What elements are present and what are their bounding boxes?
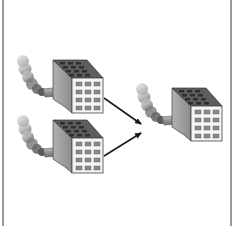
factory-icon bbox=[17, 55, 103, 113]
factory-icon bbox=[136, 83, 222, 141]
merger-diagram bbox=[0, 0, 241, 226]
arrow-icon bbox=[104, 133, 141, 156]
diagram-frame bbox=[0, 0, 241, 226]
arrow-icon bbox=[104, 98, 141, 124]
factory-icon bbox=[17, 115, 103, 173]
